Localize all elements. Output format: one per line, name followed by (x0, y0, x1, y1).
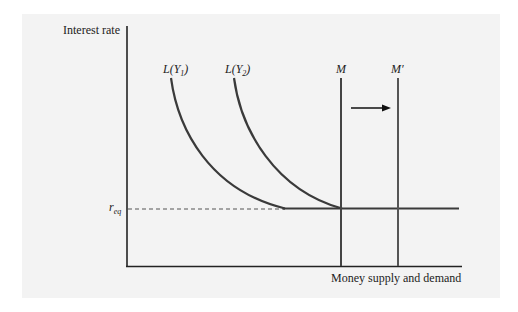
label-req: req (109, 200, 121, 216)
y-axis-label: Interest rate (63, 23, 120, 38)
label-mprime: M′ (391, 62, 404, 77)
label-m: M (336, 62, 346, 77)
label-req-sub: eq (114, 207, 122, 216)
label-ly1: L(Y1) (163, 62, 188, 78)
shift-arrow-icon (351, 105, 391, 112)
money-demand-curve-ly2 (234, 78, 342, 209)
money-demand-curve-ly1 (171, 78, 285, 209)
label-ly2-text: L(Y (225, 62, 242, 76)
label-ly1-text: L(Y (163, 62, 180, 76)
label-ly1-close: ) (184, 62, 188, 76)
x-axis-label: Money supply and demand (331, 271, 461, 286)
label-ly2-close: ) (246, 62, 250, 76)
label-ly2: L(Y2) (225, 62, 250, 78)
diagram-canvas (0, 0, 518, 312)
